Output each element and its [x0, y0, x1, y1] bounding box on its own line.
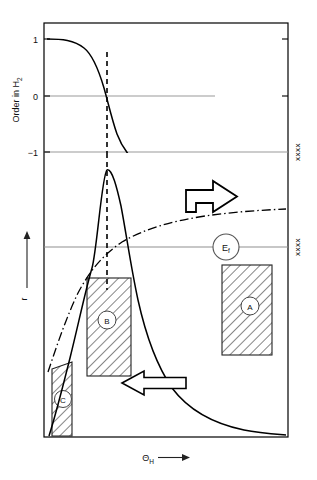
r-axis-label-text: r [19, 298, 29, 301]
region-b-label: B [104, 317, 109, 326]
theta-label-main: Θ [142, 453, 149, 463]
side-label-lower: xxxx [293, 238, 302, 256]
upper-y-tick-labels: 1 0 −1 [28, 35, 38, 158]
region-b: B [87, 278, 131, 376]
region-c: C [52, 362, 72, 436]
side-label-lower-text: xxxx [293, 238, 302, 256]
reaction-order-curve [47, 39, 129, 155]
upper-gridlines [44, 96, 288, 152]
side-label-upper-text: xxxx [293, 143, 302, 161]
upper-curve-group [47, 39, 129, 155]
upper-y-axis-label-text: Order in H2 [11, 77, 23, 123]
order-label-main: Order in H [11, 81, 21, 123]
tick-label-1: 1 [33, 35, 38, 45]
ef-annotation: Ef [213, 234, 239, 260]
tick-label-minus-1: −1 [28, 148, 38, 158]
x-axis-arrow-head [182, 454, 190, 461]
side-label-upper: xxxx [293, 143, 302, 161]
plot-frame [44, 23, 288, 437]
figure-svg: 1 0 −1 Order in H2 A [0, 0, 317, 480]
x-axis-label-text: ΘH [142, 453, 154, 465]
right-block-arrow [186, 181, 237, 212]
hatched-regions: A B C [52, 265, 272, 436]
order-label-sub: 2 [16, 77, 23, 81]
upper-y-axis-label: Order in H2 [11, 77, 23, 123]
left-block-arrow [122, 371, 186, 395]
left-block-arrow-shape [122, 371, 186, 395]
theta-label-sub: H [149, 458, 154, 465]
region-a: A [222, 265, 272, 355]
r-axis-arrow-head [24, 231, 31, 239]
lower-y-axis-label: r [19, 231, 30, 301]
tick-label-0: 0 [33, 92, 38, 102]
figure-container: 1 0 −1 Order in H2 A [0, 0, 317, 480]
frame-rect [44, 23, 288, 437]
region-a-label: A [247, 303, 253, 312]
region-c-label: C [60, 396, 66, 405]
ef-label-sub: f [228, 247, 230, 254]
x-axis-label: ΘH [142, 453, 190, 465]
right-block-arrow-shape [186, 181, 237, 212]
